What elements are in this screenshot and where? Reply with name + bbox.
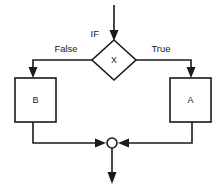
entry-arrow <box>110 5 119 41</box>
true-branch-edge <box>136 60 196 78</box>
decision-node[interactable]: X <box>92 40 136 80</box>
true-branch-label: True <box>151 43 170 54</box>
exit-arrow <box>108 148 117 184</box>
process-a-label: A <box>187 95 193 105</box>
a-to-merge-arrow-head <box>118 139 129 148</box>
decision-label: X <box>111 55 117 65</box>
true-branch-arrow-head <box>187 67 196 78</box>
merge-junction-node[interactable] <box>107 138 117 148</box>
false-branch-arrow-head <box>29 67 38 78</box>
false-branch-edge <box>29 60 93 78</box>
b-to-merge-arrow-head <box>95 139 106 148</box>
entry-label-if: IF <box>91 28 100 39</box>
process-node-a[interactable]: A <box>170 78 211 122</box>
b-to-merge-edge <box>33 122 106 148</box>
process-b-label: B <box>32 95 38 105</box>
a-to-merge-edge <box>118 122 192 148</box>
process-node-b[interactable]: B <box>15 78 56 122</box>
flowchart-svg: IF X False True B A <box>0 0 220 193</box>
false-branch-label: False <box>54 43 77 54</box>
exit-arrow-head <box>108 172 117 184</box>
flowchart-canvas: IF X False True B A <box>0 0 220 193</box>
